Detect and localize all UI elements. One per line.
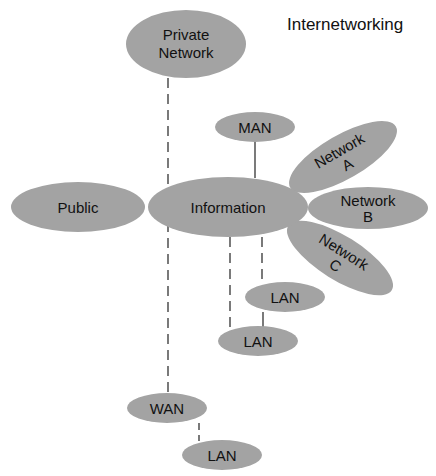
node-label: MAN [238,119,271,136]
node-label-line2: B [363,208,373,225]
node-label: LAN [207,447,236,464]
node-network-b: Network B [308,187,428,229]
node-label: Information [190,199,265,216]
node-label: LAN [243,333,272,350]
node-label: Public [58,199,99,216]
node-label: LAN [270,289,299,306]
node-label-line2: Network [158,44,214,61]
node-public: Public [11,182,145,232]
node-information: Information [148,177,308,237]
node-label-line1: Private [163,26,210,43]
node-man: MAN [215,112,295,142]
internetworking-diagram: Internetworking Private Network MAN Netw… [0,0,436,476]
node-lan-lower: LAN [218,326,298,356]
diagram-title: Internetworking [287,15,403,34]
node-lan-wan: LAN [182,440,262,470]
node-wan: WAN [127,393,207,423]
node-label: WAN [150,400,184,417]
node-label-line1: Network [340,192,396,209]
node-private-network: Private Network [126,10,246,78]
node-lan-upper: LAN [245,282,325,312]
